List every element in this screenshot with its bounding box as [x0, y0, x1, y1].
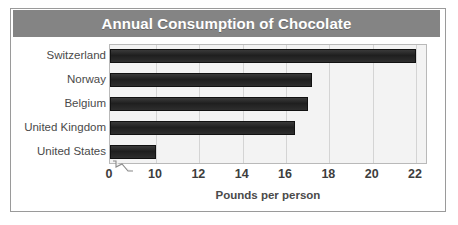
category-label-switzerland: Switzerland [47, 44, 106, 66]
x-tick-16: 16 [278, 167, 292, 181]
bar-united-states [110, 145, 156, 159]
bar-row [110, 93, 428, 115]
chart-figure: Annual Consumption of Chocolate Switzerl… [0, 0, 458, 225]
x-axis-tick-labels: 010121416182022 [109, 167, 427, 185]
category-axis-labels: SwitzerlandNorwayBelgiumUnited KingdomUn… [14, 44, 106, 160]
category-label-norway: Norway [67, 68, 106, 90]
category-label-belgium: Belgium [64, 92, 106, 114]
bar-row [110, 69, 428, 91]
bar-row [110, 141, 428, 163]
bar-switzerland [110, 49, 416, 63]
x-tick-12: 12 [191, 167, 205, 181]
category-label-united-states: United States [37, 140, 106, 162]
x-axis-title: Pounds per person [109, 189, 427, 201]
bar-norway [110, 73, 312, 87]
bar-united-kingdom [110, 121, 295, 135]
x-tick-14: 14 [235, 167, 249, 181]
bar-belgium [110, 97, 308, 111]
x-tick-18: 18 [321, 167, 335, 181]
plot-area [109, 44, 427, 164]
bar-row [110, 45, 428, 67]
x-tick-0: 0 [106, 167, 113, 181]
x-tick-10: 10 [148, 167, 162, 181]
bar-row [110, 117, 428, 139]
chart-title-banner: Annual Consumption of Chocolate [13, 10, 440, 37]
x-tick-20: 20 [365, 167, 379, 181]
x-tick-22: 22 [408, 167, 422, 181]
category-label-united-kingdom: United Kingdom [24, 116, 106, 138]
page-title: Annual Consumption of Chocolate [102, 15, 352, 32]
